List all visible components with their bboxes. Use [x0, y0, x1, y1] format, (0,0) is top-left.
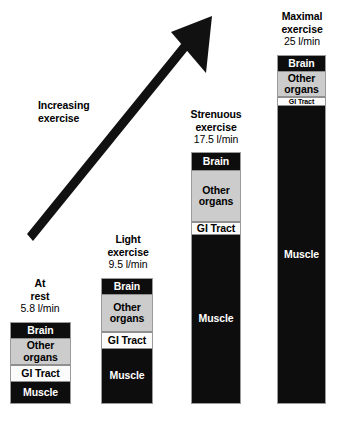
bar-at-rest: Brain Other organs GI Tract Muscle: [10, 322, 71, 404]
bar-maximal-exercise: Brain Other organs GI Tract Muscle: [277, 55, 326, 404]
segment-muscle: Muscle: [278, 106, 325, 403]
segment-gi-tract: GI Tract: [11, 365, 70, 382]
arrow-shaft: [27, 33, 196, 241]
bar-caption-value: 5.8 l/min: [2, 302, 78, 315]
segment-muscle: Muscle: [102, 349, 152, 403]
bar-caption-line2: exercise: [89, 246, 167, 259]
bar-caption-at-rest: At rest 5.8 l/min: [2, 277, 78, 315]
bar-caption-line2: exercise: [263, 23, 341, 36]
increasing-exercise-label-line1: Increasing: [38, 99, 124, 112]
bar-caption-value: 25 l/min: [263, 35, 341, 48]
bar-caption-value: 17.5 l/min: [176, 133, 256, 146]
bar-caption-line2: exercise: [176, 121, 256, 134]
segment-gi-tract: GI Tract: [102, 332, 152, 349]
segment-muscle: Muscle: [11, 382, 70, 403]
segment-muscle: Muscle: [192, 235, 240, 403]
bar-caption-line1: At: [2, 277, 78, 290]
bar-caption-light-exercise: Light exercise 9.5 l/min: [89, 233, 167, 271]
segment-brain: Brain: [192, 153, 240, 170]
bar-caption-line2: rest: [2, 290, 78, 303]
bar-light-exercise: Brain Other organs GI Tract Muscle: [101, 278, 153, 404]
increasing-exercise-label-line2: exercise: [38, 112, 124, 125]
segment-other-organs: Other organs: [278, 71, 325, 97]
segment-other-organs: Other organs: [192, 170, 240, 222]
bar-caption-value: 9.5 l/min: [89, 258, 167, 271]
segment-gi-tract: GI Tract: [192, 222, 240, 235]
bar-strenuous-exercise: Brain Other organs GI Tract Muscle: [191, 152, 241, 404]
bar-caption-strenuous-exercise: Strenuous exercise 17.5 l/min: [176, 108, 256, 146]
arrow-head-icon: [171, 16, 212, 73]
increasing-exercise-label: Increasing exercise: [38, 99, 124, 125]
segment-gi-tract: GI Tract: [278, 97, 325, 106]
segment-brain: Brain: [278, 56, 325, 71]
bar-caption-line1: Light: [89, 233, 167, 246]
bar-caption-maximal-exercise: Maximal exercise 25 l/min: [263, 10, 341, 48]
bar-caption-line1: Maximal: [263, 10, 341, 23]
segment-other-organs: Other organs: [102, 294, 152, 332]
segment-brain: Brain: [102, 279, 152, 294]
segment-brain: Brain: [11, 323, 70, 338]
segment-other-organs: Other organs: [11, 338, 70, 365]
bar-caption-line1: Strenuous: [176, 108, 256, 121]
cardiac-output-distribution-figure: Increasing exercise At rest 5.8 l/min Br…: [0, 0, 341, 424]
